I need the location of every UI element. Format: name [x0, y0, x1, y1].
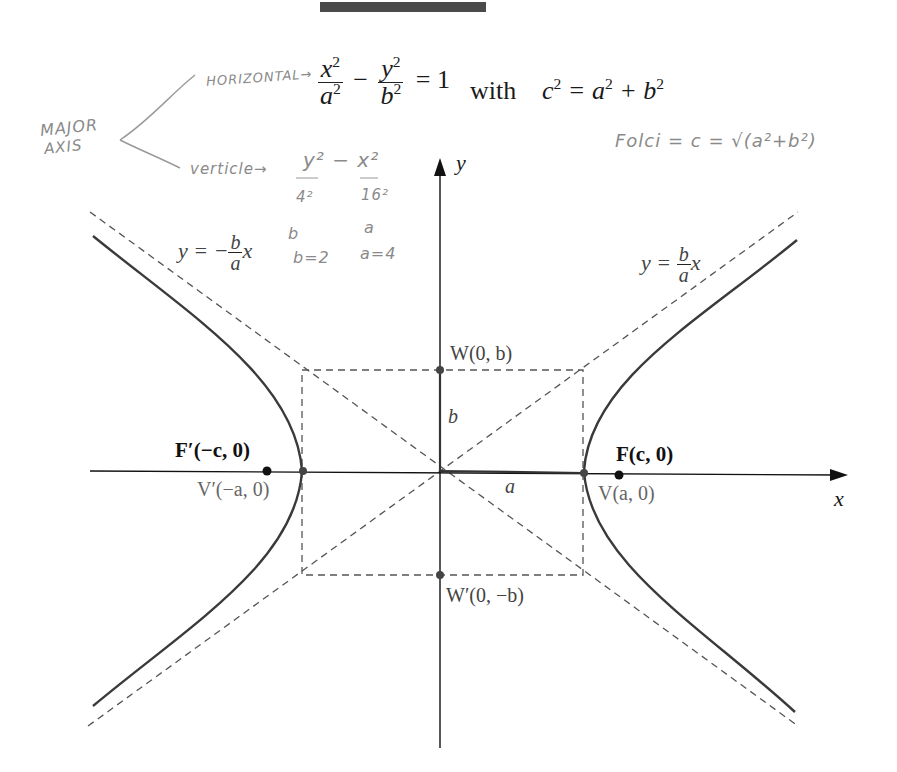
point-F: [615, 471, 624, 480]
label-segment-a: a: [505, 475, 515, 498]
label-segment-b: b: [448, 405, 458, 428]
label-W-prime: W′(0, −b): [446, 584, 524, 607]
label-V: V(a, 0): [598, 482, 655, 505]
asymptote-positive-label: y = bax: [641, 244, 700, 285]
brace-lower-stroke: [120, 140, 180, 168]
point-F-prime: [263, 467, 272, 476]
label-F-prime: F′(−c, 0): [175, 438, 250, 463]
label-V-prime: V′(−a, 0): [197, 478, 269, 501]
label-F: F(c, 0): [616, 442, 673, 467]
point-W-prime: [436, 571, 444, 579]
x-axis-label: x: [834, 486, 844, 512]
asymptote-positive-slope: [88, 212, 798, 726]
point-W: [436, 366, 444, 374]
brace-upper-stroke: [120, 75, 195, 140]
asymptote-negative-label: y = −bax: [178, 232, 252, 273]
y-axis-label: y: [456, 150, 466, 176]
label-W: W(0, b): [450, 342, 512, 365]
point-V: [580, 469, 588, 477]
point-V-prime: [299, 467, 307, 475]
hyperbola-diagram: [0, 0, 897, 772]
x-axis-arrow-icon: [830, 469, 848, 481]
y-axis-arrow-icon: [434, 158, 446, 176]
